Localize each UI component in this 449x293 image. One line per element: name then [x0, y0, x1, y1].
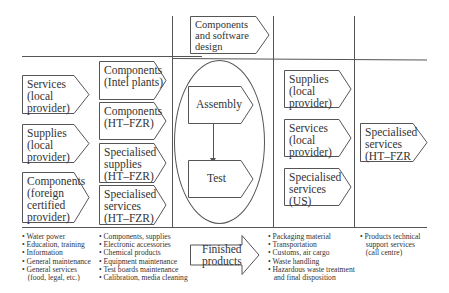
list-item: (food, legal, etc.): [22, 274, 91, 282]
col2-box-components-intel-label: Components (Intel plants): [104, 64, 163, 88]
right-box-specialised-services: Specialised services (HT–FZR: [360, 123, 428, 162]
divider-horizontal-top: [22, 56, 202, 57]
col4-box-specialised-us: Specialised services (US): [284, 168, 352, 206]
list-item: • Calibration, media cleaning: [99, 274, 188, 282]
assembly-to-test-line: [213, 124, 214, 160]
assembly-box: Assembly: [188, 86, 254, 124]
left-box-components: Components (foreign certified provider): [22, 172, 90, 223]
test-box: Test: [188, 160, 254, 198]
col4-box-services-label: Services (local provider): [289, 122, 332, 158]
divider-horizontal-top-right: [172, 58, 427, 61]
second-list: • Components, supplies • Electronic acce…: [99, 233, 188, 282]
assembly-label: Assembly: [196, 98, 242, 110]
list-item: and final disposition: [268, 274, 355, 282]
left-box-supplies-label: Supplies (local provider): [27, 127, 70, 163]
left-list: • Water power • Education, training • In…: [22, 233, 91, 282]
col2-box-components-htfzr: Components (HT–FZR): [99, 102, 167, 140]
finished-products-arrow: Finished products: [190, 235, 260, 275]
col2-box-specialised-supplies: Specialised supplies (HT–FZR): [99, 143, 167, 183]
fourth-list: • Packaging material • Transportation • …: [268, 233, 355, 282]
divider-vertical-3: [354, 16, 355, 227]
divider-vertical-2: [273, 16, 274, 227]
right-box-specialised-services-label: Specialised services (HT–FZR: [365, 126, 417, 162]
design-box-label: Components and software design: [195, 19, 249, 52]
left-box-services: Services (local provider): [22, 75, 90, 114]
col4-box-supplies-label: Supplies (local provider): [289, 73, 332, 109]
col2-box-components-intel: Components (Intel plants): [99, 61, 167, 100]
col2-box-specialised-services-label: Specialised services (HT–FZR): [104, 188, 156, 224]
left-box-supplies: Supplies (local provider): [22, 124, 90, 163]
finished-products-label: Finished products: [202, 243, 242, 267]
col4-box-specialised-us-label: Specialised services (US): [289, 171, 341, 207]
list-item: (call centre): [360, 249, 420, 257]
process-oval: [174, 60, 265, 224]
divider-vertical-1: [172, 16, 173, 227]
design-box: Components and software design: [190, 16, 270, 54]
left-box-components-label: Components (foreign certified provider): [27, 175, 85, 223]
left-box-services-label: Services (local provider): [27, 78, 70, 114]
col4-box-supplies: Supplies (local provider): [284, 70, 352, 108]
col2-box-components-htfzr-label: Components (HT–FZR): [104, 105, 162, 129]
col4-box-services: Services (local provider): [284, 119, 352, 157]
test-label: Test: [207, 172, 226, 184]
divider-horizontal-bottom: [22, 227, 427, 228]
col2-box-specialised-services: Specialised services (HT–FZR): [99, 185, 167, 225]
right-list: • Products technical support services (c…: [360, 233, 420, 258]
col2-box-specialised-supplies-label: Specialised supplies (HT–FZR): [104, 146, 156, 182]
